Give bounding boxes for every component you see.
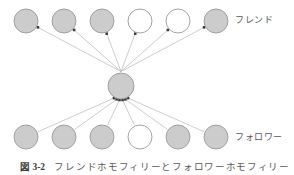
friend-node-2[interactable] — [52, 9, 76, 33]
friend-node-4[interactable] — [128, 9, 152, 33]
figure-container: フレンド フォロワー 図 3-2 フレンドホモフィリーとフォロワーホモフィリー — [0, 0, 294, 175]
friend-edge — [107, 34, 121, 72]
friend-node-5[interactable] — [166, 9, 190, 33]
follower-node-group — [14, 125, 228, 149]
friend-node-1[interactable] — [14, 9, 38, 33]
figure-caption: 図 3-2 フレンドホモフィリーとフォロワーホモフィリー — [20, 159, 294, 173]
friend-node-3[interactable] — [90, 9, 114, 33]
friend-edge — [38, 27, 121, 71]
center-node-group — [108, 73, 134, 99]
follower-edge — [108, 100, 120, 125]
follower-edge — [75, 99, 117, 129]
follower-node-4[interactable] — [128, 125, 152, 149]
follower-node-5[interactable] — [166, 125, 190, 149]
caption-text: フレンドホモフィリーとフォロワーホモフィリー — [54, 162, 289, 172]
ego-node[interactable] — [108, 73, 134, 99]
friend-edge — [74, 30, 121, 72]
friend-node-6[interactable] — [204, 9, 228, 33]
caption-number: 図 3-2 — [20, 162, 45, 172]
friend-edge — [121, 30, 168, 72]
friend-edge — [121, 27, 204, 71]
follower-node-3[interactable] — [90, 125, 114, 149]
follower-edge — [125, 99, 167, 129]
follower-node-6[interactable] — [204, 125, 228, 149]
follower-node-1[interactable] — [14, 125, 38, 149]
follower-row-label: フォロワー — [235, 130, 283, 143]
network-diagram — [0, 0, 294, 175]
friend-edge — [121, 34, 135, 72]
follower-node-2[interactable] — [52, 125, 76, 149]
follower-edge — [122, 100, 134, 125]
friend-node-group — [14, 9, 228, 33]
friend-row-label: フレンド — [235, 13, 273, 26]
friend-edge-group — [38, 27, 204, 71]
